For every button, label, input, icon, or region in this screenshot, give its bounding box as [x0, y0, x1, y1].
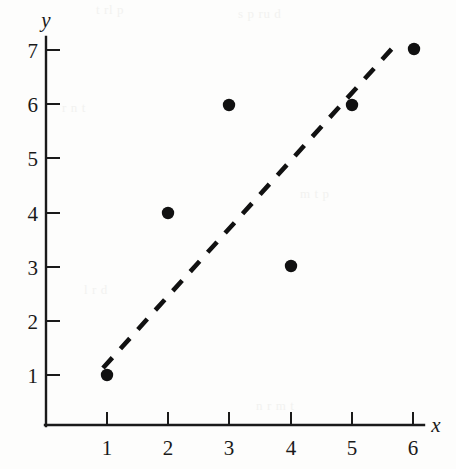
x-axis-ticks	[107, 412, 413, 425]
x-axis-label: x	[430, 413, 441, 437]
x-tick-label-6: 6	[408, 436, 419, 460]
data-point	[162, 207, 174, 219]
x-tick-label-1: 1	[102, 436, 113, 460]
y-tick-label-5: 5	[28, 147, 39, 171]
x-tick-label-3: 3	[224, 436, 235, 460]
y-tick-label-7: 7	[28, 39, 39, 63]
data-point	[223, 99, 235, 111]
scatter-plot: 7 6 5 4 3 2 1 1 2 3 4 5 6 y x	[0, 0, 456, 469]
figure-root: t rl p s p ru d r n t m t p l r d n r m …	[0, 0, 456, 469]
x-tick-label-5: 5	[347, 436, 358, 460]
data-point	[408, 43, 420, 55]
y-tick-label-6: 6	[28, 93, 39, 117]
x-axis-tick-labels: 1 2 3 4 5 6	[102, 436, 419, 460]
y-tick-label-3: 3	[28, 256, 39, 280]
x-tick-label-4: 4	[286, 436, 297, 460]
data-point	[101, 369, 113, 381]
y-axis-tick-labels: 7 6 5 4 3 2 1	[28, 39, 39, 388]
y-axis-ticks	[46, 50, 60, 375]
y-tick-label-4: 4	[28, 202, 39, 226]
trend-line-dashed	[103, 42, 398, 368]
x-tick-label-2: 2	[163, 436, 174, 460]
data-point-group	[101, 43, 420, 381]
y-tick-label-1: 1	[28, 364, 39, 388]
data-point	[346, 99, 358, 111]
data-point	[285, 260, 297, 272]
y-tick-label-2: 2	[28, 310, 39, 334]
y-axis-label: y	[39, 8, 51, 32]
